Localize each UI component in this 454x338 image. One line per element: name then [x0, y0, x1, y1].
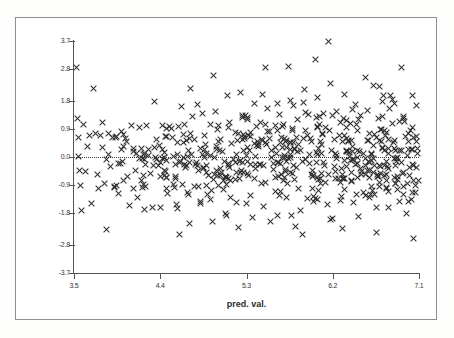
- x-marker-icon: [215, 182, 222, 189]
- x-marker-icon: [281, 152, 288, 159]
- x-marker-icon: [357, 112, 364, 119]
- x-marker-icon: [140, 181, 147, 188]
- x-marker-icon: [362, 162, 369, 169]
- x-marker-icon: [187, 130, 194, 137]
- x-marker-icon: [223, 212, 230, 219]
- x-marker-icon: [376, 83, 383, 90]
- x-axis-title: pred. val.: [74, 299, 419, 309]
- x-marker-icon: [413, 102, 420, 109]
- x-marker-icon: [343, 147, 350, 154]
- x-marker-icon: [259, 137, 266, 144]
- x-marker-icon: [208, 187, 215, 194]
- x-marker-icon: [367, 191, 374, 198]
- x-marker-icon: [376, 183, 383, 190]
- x-marker-icon: [247, 192, 254, 199]
- x-marker-icon: [255, 141, 262, 148]
- x-marker-icon: [338, 165, 345, 172]
- x-marker-icon: [252, 153, 259, 160]
- x-marker-icon: [199, 110, 206, 117]
- x-marker-icon: [332, 150, 339, 157]
- x-marker-icon: [314, 123, 321, 130]
- x-marker-icon: [163, 174, 170, 181]
- x-marker-icon: [147, 170, 154, 177]
- x-marker-icon: [224, 92, 231, 99]
- x-marker-icon: [236, 175, 243, 182]
- x-marker-icon: [124, 173, 131, 180]
- x-marker-icon: [115, 190, 122, 197]
- x-marker-icon: [328, 147, 335, 154]
- x-marker-icon: [270, 166, 277, 173]
- x-marker-icon: [325, 171, 332, 178]
- x-marker-icon: [403, 210, 410, 217]
- x-marker-icon: [350, 199, 357, 206]
- x-marker-icon: [113, 182, 120, 189]
- x-marker-icon: [396, 147, 403, 154]
- x-marker-icon: [242, 112, 249, 119]
- x-marker-icon: [181, 161, 188, 168]
- x-marker-icon: [352, 101, 359, 108]
- x-marker-icon: [182, 164, 189, 171]
- x-marker-icon: [357, 165, 364, 172]
- x-marker-icon: [209, 218, 216, 225]
- x-marker-icon: [383, 158, 390, 165]
- x-marker-icon: [280, 177, 287, 184]
- x-marker-icon: [266, 135, 273, 142]
- x-marker-icon: [341, 186, 348, 193]
- x-marker-icon: [400, 191, 407, 198]
- x-marker-icon: [341, 132, 348, 139]
- x-marker-icon: [348, 178, 355, 185]
- x-marker-icon: [329, 215, 336, 222]
- x-marker-icon: [212, 108, 219, 115]
- x-marker-icon: [166, 123, 173, 130]
- x-marker-icon: [385, 204, 392, 211]
- x-marker-icon: [260, 162, 267, 169]
- x-marker-icon: [162, 133, 169, 140]
- x-marker-icon: [383, 171, 390, 178]
- x-tick-mark: [333, 273, 334, 279]
- x-marker-icon: [216, 147, 223, 154]
- x-marker-icon: [211, 171, 218, 178]
- x-marker-icon: [331, 136, 338, 143]
- x-marker-icon: [287, 97, 294, 104]
- x-marker-icon: [391, 100, 398, 107]
- x-marker-icon: [84, 143, 91, 150]
- x-marker-icon: [321, 162, 328, 169]
- x-marker-icon: [247, 129, 254, 136]
- x-marker-icon: [99, 144, 106, 151]
- x-marker-icon: [232, 176, 239, 183]
- x-marker-icon: [374, 171, 381, 178]
- x-marker-icon: [327, 80, 334, 87]
- x-marker-icon: [222, 210, 229, 217]
- x-marker-icon: [163, 185, 170, 192]
- x-marker-icon: [349, 106, 356, 113]
- x-marker-icon: [139, 184, 146, 191]
- x-marker-icon: [383, 184, 390, 191]
- x-marker-icon: [282, 138, 289, 145]
- x-marker-icon: [297, 147, 304, 154]
- x-marker-icon: [275, 159, 282, 166]
- x-marker-icon: [319, 130, 326, 137]
- x-marker-icon: [392, 180, 399, 187]
- x-marker-icon: [331, 163, 338, 170]
- x-marker-icon: [333, 108, 340, 115]
- x-marker-icon: [313, 159, 320, 166]
- x-marker-icon: [412, 182, 419, 189]
- x-marker-icon: [178, 103, 185, 110]
- x-marker-icon: [142, 161, 149, 168]
- x-marker-icon: [225, 175, 232, 182]
- x-marker-icon: [315, 176, 322, 183]
- x-marker-icon: [384, 163, 391, 170]
- x-marker-icon: [297, 207, 304, 214]
- x-marker-icon: [122, 135, 129, 142]
- x-marker-icon: [290, 139, 297, 146]
- x-marker-icon: [257, 161, 264, 168]
- x-marker-icon: [317, 175, 324, 182]
- x-marker-icon: [379, 98, 386, 105]
- x-marker-icon: [389, 96, 396, 103]
- x-marker-icon: [197, 200, 204, 207]
- x-tick-mark: [419, 273, 420, 279]
- x-marker-icon: [200, 164, 207, 171]
- x-marker-icon: [113, 133, 120, 140]
- x-marker-icon: [371, 131, 378, 138]
- x-marker-icon: [404, 180, 411, 187]
